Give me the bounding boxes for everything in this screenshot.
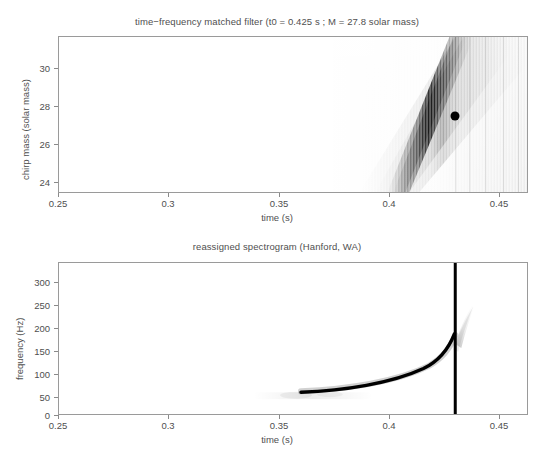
bottom-xticklabel-040: 0.4 [382,420,395,431]
top-ytick-30 [54,68,58,69]
bottom-xaxis-label: time (s) [0,434,554,445]
bottom-ytick-150 [54,351,58,352]
bottom-xticklabel-045: 0.45 [490,420,509,431]
top-ytick-24 [54,182,58,183]
bottom-xtick-045 [499,415,500,419]
bottom-ytick-300 [54,282,58,283]
top-xaxis-label: time (s) [0,212,554,223]
panel-reassigned-spectrogram: reassigned spectrogram (Hanford, WA) [0,232,554,467]
bottom-yticklabel-250: 250 [20,300,50,311]
top-xticklabel-045: 0.45 [490,198,509,209]
bottom-ytick-50 [54,397,58,398]
top-xticklabel-040: 0.4 [382,198,395,209]
bottom-xticklabel-030: 0.3 [161,420,174,431]
bottom-xticklabel-025: 0.25 [49,420,68,431]
panel-matched-filter: time−frequency matched filter (t0 = 0.42… [0,0,554,232]
bottom-panel-title: reassigned spectrogram (Hanford, WA) [0,241,554,252]
figure-canvas: time−frequency matched filter (t0 = 0.42… [0,0,554,467]
top-ytick-26 [54,144,58,145]
bottom-xtick-035 [279,415,280,419]
top-yaxis-label: chirp mass (solar mass) [20,79,31,180]
top-ytick-28 [54,106,58,107]
bottom-ytick-100 [54,374,58,375]
top-yticklabel-24: 24 [28,177,50,188]
bottom-xtick-040 [389,415,390,419]
bottom-ytick-200 [54,328,58,329]
top-xtick-040 [389,193,390,197]
top-xtick-025 [58,193,59,197]
bottom-xtick-025 [58,415,59,419]
top-xtick-030 [168,193,169,197]
bottom-xtick-030 [168,415,169,419]
bottom-yticklabel-300: 300 [20,277,50,288]
top-axes [58,36,528,193]
top-yticklabel-26: 26 [28,139,50,150]
top-xticklabel-035: 0.35 [270,198,289,209]
top-xtick-045 [499,193,500,197]
top-yticklabel-28: 28 [28,101,50,112]
best-fit-marker-dot [451,112,460,121]
bottom-yticklabel-50: 50 [20,392,50,403]
top-xticklabel-025: 0.25 [49,198,68,209]
top-yticklabel-30: 30 [28,63,50,74]
top-xticklabel-030: 0.3 [161,198,174,209]
bottom-spectrogram-layer [59,263,527,414]
bottom-axes [58,262,528,415]
top-panel-title: time−frequency matched filter (t0 = 0.42… [0,16,554,27]
bottom-xticklabel-035: 0.35 [270,420,289,431]
bottom-yaxis-label: frequency (Hz) [14,318,25,380]
bottom-ytick-250 [54,305,58,306]
top-xtick-035 [279,193,280,197]
bottom-yticklabel-0: 0 [20,410,50,421]
merger-time-line [454,263,457,415]
